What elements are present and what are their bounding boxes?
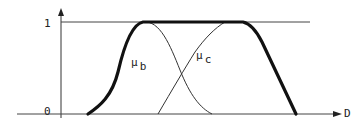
- union-curve: [88, 22, 296, 114]
- mu-c-curve: [158, 22, 225, 114]
- mu-b-label: μb: [131, 57, 146, 68]
- tick-label-one: 1: [44, 18, 51, 29]
- y-axis-arrow-icon: [58, 8, 64, 16]
- membership-diagram: 1 0 D μb μc: [0, 0, 361, 125]
- mu-b-curve: [143, 22, 212, 114]
- x-axis-label: D: [344, 108, 351, 119]
- tick-label-zero: 0: [44, 106, 51, 117]
- x-axis-arrow-icon: [333, 111, 342, 117]
- diagram-canvas: [0, 0, 361, 125]
- mu-c-label: μc: [196, 50, 211, 61]
